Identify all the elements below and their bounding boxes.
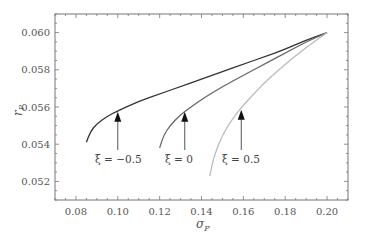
plot-frame bbox=[55, 14, 348, 200]
y-tick-label: 0.054 bbox=[21, 139, 50, 150]
y-tick-label: 0.052 bbox=[21, 176, 50, 187]
y-axis-label: rP bbox=[11, 104, 26, 116]
curve-series-0 bbox=[86, 33, 327, 143]
axis-ticks bbox=[55, 14, 348, 200]
tick-labels: 0.080.100.120.140.160.180.200.0520.0540.… bbox=[21, 27, 338, 217]
x-tick-label: 0.14 bbox=[190, 206, 212, 217]
x-tick-label: 0.08 bbox=[65, 206, 87, 217]
efficient-frontier-chart: 0.080.100.120.140.160.180.200.0520.0540.… bbox=[0, 0, 366, 239]
annotation-xi-0.5: ξ = 0.5 bbox=[222, 153, 260, 165]
x-tick-label: 0.18 bbox=[274, 206, 296, 217]
x-tick-label: 0.16 bbox=[232, 206, 254, 217]
arrow-head-icon bbox=[114, 112, 121, 122]
x-tick-label: 0.12 bbox=[149, 206, 171, 217]
annotation-xi-0: ξ = 0 bbox=[165, 153, 193, 165]
x-tick-label: 0.10 bbox=[107, 206, 129, 217]
y-tick-label: 0.060 bbox=[21, 27, 50, 38]
annotation-xi-neg-0.5: ξ = −0.5 bbox=[95, 153, 142, 165]
y-tick-label: 0.058 bbox=[21, 64, 50, 75]
x-axis-label: σP bbox=[196, 217, 210, 233]
x-tick-label: 0.20 bbox=[316, 206, 338, 217]
